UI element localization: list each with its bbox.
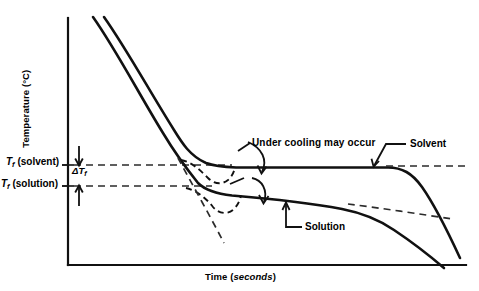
delta-tf-symbol: ΔT (72, 165, 84, 176)
undercooling-leader-tail (238, 143, 250, 151)
x-axis-title-tail: ) (273, 271, 276, 282)
solution-curve-label: Solution (305, 222, 345, 232)
solvent-curve-label: Solvent (410, 139, 446, 149)
undercooling-leader-tail-2 (230, 178, 244, 184)
delta-tf-subscript: f (84, 169, 86, 178)
undercooling-annotation: Under cooling may occur (252, 138, 375, 148)
undercooling-callout-arrows (230, 142, 269, 204)
x-axis-title-plain: Time ( (205, 271, 233, 282)
tf-solution-label: Tf (solution) (1, 179, 58, 191)
cooling-curve-figure: Temperature (°C) Time (seconds) Tf (solv… (0, 0, 479, 291)
tf-solvent-suffix: (solvent) (15, 156, 59, 167)
solvent-leader-line (374, 144, 406, 166)
solution-callout (282, 202, 302, 227)
x-axis-title-italic: seconds (233, 271, 272, 282)
delta-tf-label: ΔTf (72, 166, 87, 177)
x-axis-title: Time (seconds) (205, 272, 276, 282)
solvent-callout (372, 144, 407, 167)
tf-solvent-label: Tf (solvent) (6, 157, 59, 169)
tf-solution-suffix: (solution) (10, 178, 58, 189)
y-axis-title: Temperature (°C) (21, 54, 31, 164)
